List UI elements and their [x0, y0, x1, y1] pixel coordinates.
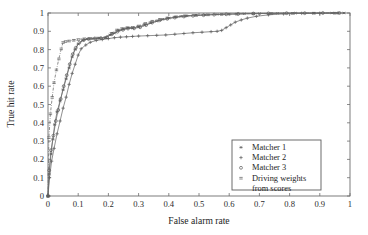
series-marker-plus: [191, 31, 194, 34]
legend-item-label: Matcher 3: [252, 163, 286, 172]
chart-legend: Matcher 1Matcher 2Matcher 3Driving weigh…: [232, 140, 321, 193]
x-tick-label: 0.7: [254, 199, 265, 209]
y-axis-title: True hit rate: [5, 80, 16, 127]
series-marker-plus: [146, 34, 149, 37]
y-tick-label: 0: [40, 191, 44, 201]
series-marker-plus: [173, 33, 176, 36]
x-tick-label: 0.8: [284, 199, 295, 209]
series-marker-plus: [64, 95, 67, 98]
x-axis-title: False alarm rate: [168, 215, 229, 226]
legend-item-label: Matcher 1: [252, 143, 286, 152]
series-marker-plus: [70, 72, 73, 75]
roc-chart-figure: 00.10.20.30.40.50.60.70.80.91 00.10.20.3…: [0, 0, 368, 235]
y-tick-label: 0.8: [33, 45, 44, 55]
series-marker-plus: [137, 34, 140, 37]
series-marker-plus: [215, 30, 218, 33]
roc-chart-svg: 00.10.20.30.40.50.60.70.80.91 00.10.20.3…: [0, 0, 368, 235]
y-tick-label: 0.3: [33, 136, 44, 146]
series-marker-plus: [220, 29, 223, 32]
x-tick-label: 1: [348, 199, 352, 209]
series-marker-plus: [125, 35, 128, 38]
series-marker-plus: [234, 20, 237, 23]
series-marker-plus: [61, 106, 64, 109]
series-marker-plus: [67, 83, 70, 86]
series-marker-asterisk: [342, 12, 345, 14]
y-tick-label: 0.6: [33, 81, 44, 91]
y-tick-label: 0.5: [33, 100, 44, 110]
x-tick-label: 0.6: [224, 199, 235, 209]
series-marker-plus: [155, 34, 158, 37]
legend-item-label: Matcher 2: [252, 153, 286, 162]
series-marker-dotted: [57, 58, 60, 60]
y-tick-label: 0.1: [33, 173, 44, 183]
series-marker-plus: [200, 31, 203, 34]
series-marker-plus: [89, 41, 92, 44]
series-marker-plus: [77, 53, 80, 56]
y-tick-label: 0.7: [33, 63, 44, 73]
y-tick-label: 1: [40, 8, 44, 18]
series-marker-plus: [240, 18, 243, 21]
series-marker-dotted: [77, 39, 80, 41]
y-tick-label: 0.2: [33, 154, 44, 164]
series-marker-plus: [119, 35, 122, 38]
y-tick-label: 0.9: [33, 26, 44, 36]
series-marker-dotted: [51, 97, 54, 99]
legend-item-label: from scores: [252, 184, 291, 193]
series-marker-plus: [182, 32, 185, 35]
x-tick-label: 0.5: [194, 199, 205, 209]
series-marker-plus: [58, 119, 61, 122]
x-tick-label: 0.1: [73, 199, 84, 209]
series-marker-plus: [164, 33, 167, 36]
x-tick-label: 0.3: [133, 199, 144, 209]
series-marker-plus: [224, 26, 227, 29]
series-marker-plus: [209, 30, 212, 33]
series-marker-plus: [246, 16, 249, 19]
series-marker-dotted: [49, 113, 52, 115]
series-marker-plus: [73, 63, 76, 66]
y-tick-label: 0.4: [33, 118, 44, 128]
series-marker-plus: [52, 147, 55, 150]
x-tick-label: 0.2: [103, 199, 114, 209]
series-marker-plus: [55, 132, 58, 135]
series-marker-plus: [131, 35, 134, 38]
series-marker-plus: [229, 23, 232, 26]
x-tick-label: 0.9: [314, 199, 325, 209]
x-tick-label: 0.4: [163, 199, 174, 209]
x-tick-label: 0: [46, 199, 50, 209]
legend-item-label: Driving weights: [252, 174, 306, 183]
series-marker-plus: [255, 15, 258, 18]
series-marker-plus: [113, 36, 116, 39]
